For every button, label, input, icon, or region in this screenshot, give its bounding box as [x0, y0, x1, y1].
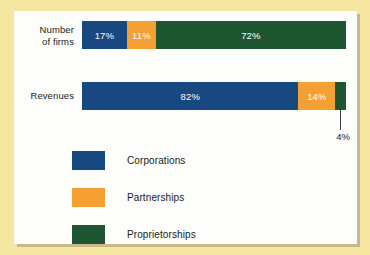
legend-item-corporations[interactable]: Corporations	[72, 146, 332, 174]
legend-item-proprietorships[interactable]: Proprietorships	[72, 220, 332, 248]
bar-row-number-of-firms: Number of firms 17% 11% 72%	[14, 21, 357, 49]
bar-segment-corporations[interactable]: 82%	[82, 82, 298, 110]
legend-label-partnerships: Partnerships	[127, 192, 184, 203]
bar-segment-label-proprietorships: 72%	[241, 30, 261, 41]
bar-segment-partnerships[interactable]: 11%	[127, 21, 156, 49]
legend-swatch-partnerships	[72, 188, 105, 207]
legend-swatch-proprietorships	[72, 225, 105, 244]
row-label-number-of-firms: Number of firms	[14, 24, 74, 47]
legend-label-proprietorships: Proprietorships	[127, 229, 196, 240]
bar-segment-partnerships[interactable]: 14%	[298, 82, 335, 110]
chart-panel: Number of firms 17% 11% 72% Revenues	[14, 11, 357, 244]
bar-segment-label-corporations: 82%	[180, 91, 200, 102]
legend-label-corporations: Corporations	[127, 155, 185, 166]
bar-segment-corporations[interactable]: 17%	[82, 21, 127, 49]
row-label-revenues: Revenues	[14, 90, 74, 102]
bar-segment-label-partnerships: 11%	[132, 30, 151, 41]
stacked-bar-revenues: 82% 14% 4%	[82, 82, 346, 110]
bar-segment-proprietorships[interactable]: 4%	[335, 82, 346, 110]
chart-legend: Corporations Partnerships Proprietorship…	[72, 146, 332, 255]
legend-item-partnerships[interactable]: Partnerships	[72, 183, 332, 211]
chart-figure: Number of firms 17% 11% 72% Revenues	[0, 0, 370, 255]
callout-label-4-percent: 4%	[326, 131, 360, 142]
bar-segment-proprietorships[interactable]: 72%	[156, 21, 346, 49]
row-label-line1: Revenues	[14, 90, 74, 102]
legend-swatch-corporations	[72, 151, 105, 170]
row-label-line2: of firms	[14, 35, 74, 47]
bar-row-revenues: Revenues 82% 14% 4%	[14, 82, 357, 110]
bar-segment-label-partnerships: 14%	[307, 91, 327, 102]
bar-segment-label-corporations: 17%	[95, 30, 115, 41]
stacked-bar-number-of-firms: 17% 11% 72%	[82, 21, 346, 49]
callout-leader-line	[340, 110, 341, 130]
row-label-line1: Number	[14, 24, 74, 36]
